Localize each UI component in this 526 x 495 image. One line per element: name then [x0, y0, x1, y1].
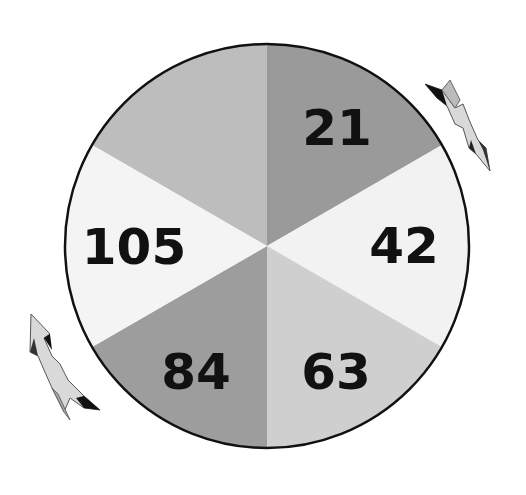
segment-label-bottom-left: 84 — [161, 343, 231, 401]
circle-number-puzzle: 21426384105 — [0, 0, 526, 495]
segment-label-top-right: 21 — [302, 99, 372, 157]
segment-label-bottom-right: 63 — [301, 343, 371, 401]
segment-label-left: 105 — [82, 218, 186, 276]
segment-label-right: 42 — [369, 217, 439, 275]
